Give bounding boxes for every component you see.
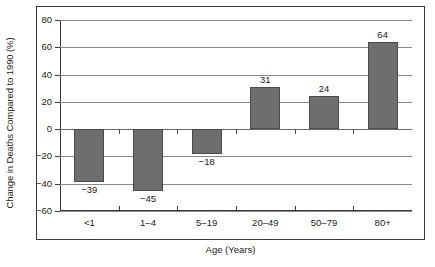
bar-chart-figure: Change in Deaths Compared to 1990 (%) 80… <box>0 0 435 267</box>
bar-value-label: 24 <box>304 83 344 94</box>
x-axis-tick-label: 50–79 <box>296 217 352 228</box>
x-axis-tick-label: 1–4 <box>120 217 176 228</box>
x-axis-tick <box>295 206 296 211</box>
bar <box>192 129 222 154</box>
y-axis-tick <box>55 129 60 130</box>
x-axis-tick-label: <1 <box>61 217 117 228</box>
x-axis-tick <box>177 206 178 211</box>
zero-line-tick <box>119 129 120 134</box>
y-axis-tick <box>55 211 60 212</box>
y-axis-tick-label: 0 <box>28 124 52 134</box>
gridline <box>60 156 412 157</box>
x-axis-title: Age (Years) <box>36 244 425 256</box>
y-axis-tick-label: −40 <box>28 179 52 189</box>
bar <box>133 129 163 190</box>
gridline <box>60 211 412 212</box>
gridline <box>60 102 412 103</box>
y-axis-tick <box>55 156 60 157</box>
gridline <box>60 47 412 48</box>
y-axis-title: Change in Deaths Compared to 1990 (%) <box>2 6 18 240</box>
x-axis-tick <box>236 206 237 211</box>
y-axis-tick-label: 40 <box>28 70 52 80</box>
y-axis-tick-label: 20 <box>28 97 52 107</box>
y-axis-tick <box>55 75 60 76</box>
zero-line-tick <box>236 129 237 134</box>
bar <box>309 96 339 129</box>
gridline <box>60 184 412 185</box>
bar <box>368 42 398 129</box>
bar-value-label: −45 <box>128 193 168 204</box>
zero-line-tick <box>295 129 296 134</box>
zero-line-tick <box>353 129 354 134</box>
gridline <box>60 20 412 21</box>
bar-value-label: −39 <box>69 184 109 195</box>
y-axis-tick <box>55 47 60 48</box>
gridline <box>60 75 412 76</box>
bar-value-label: 64 <box>363 29 403 40</box>
y-axis-line <box>60 20 61 211</box>
x-axis-tick <box>353 206 354 211</box>
bar <box>250 87 280 129</box>
y-axis-tick-label: −20 <box>28 151 52 161</box>
x-axis-tick-label: 80+ <box>355 217 411 228</box>
y-axis-tick <box>55 184 60 185</box>
bar <box>74 129 104 182</box>
y-axis-tick-label: 80 <box>28 15 52 25</box>
x-axis-tick <box>119 206 120 211</box>
zero-line-tick <box>177 129 178 134</box>
plot-area: 806040200−20−40−60−39<1−451–4−185–193120… <box>60 20 412 211</box>
x-axis-tick-label: 20–49 <box>237 217 293 228</box>
bar-value-label: 31 <box>245 74 285 85</box>
y-axis-tick <box>55 102 60 103</box>
y-axis-tick <box>55 20 60 21</box>
bar-value-label: −18 <box>187 156 227 167</box>
y-axis-tick-label: 60 <box>28 42 52 52</box>
x-axis-tick-label: 5–19 <box>179 217 235 228</box>
y-axis-tick-label: −60 <box>28 206 52 216</box>
